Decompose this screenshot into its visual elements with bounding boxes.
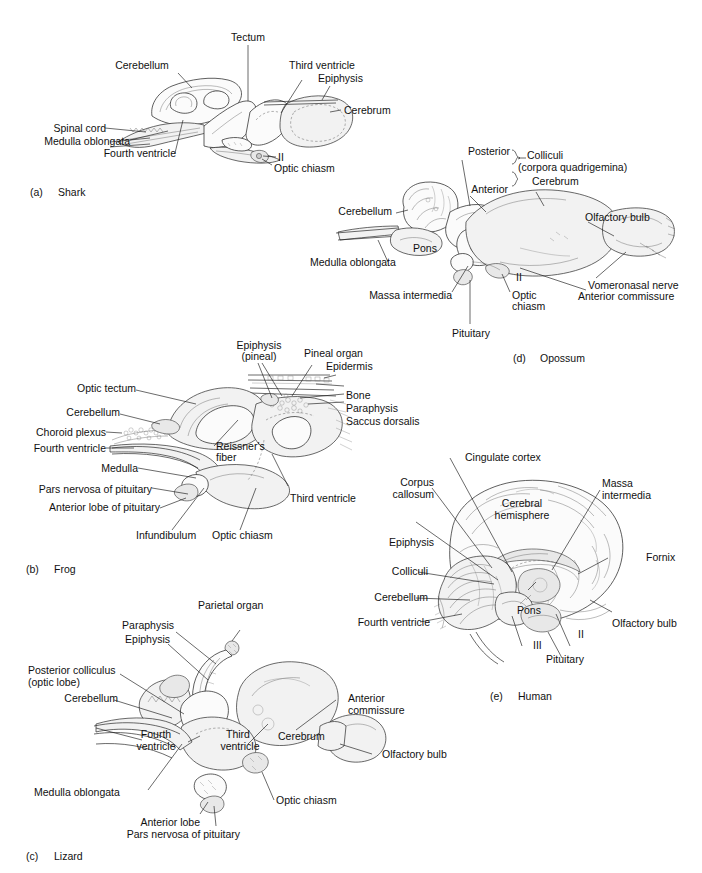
label-lizard-pars-nervosa: Pars nervosa of pituitary — [40, 829, 240, 841]
label-opossum-optic-nerve-ii: II — [516, 272, 522, 284]
label-human-pons: Pons — [517, 605, 541, 617]
label-opossum-cerebrum: Cerebrum — [532, 176, 579, 188]
panel-marker-b: (b) — [26, 563, 39, 575]
label-frog-optic-tectum: Optic tectum — [60, 383, 136, 395]
label-opossum-pituitary: Pituitary — [452, 328, 490, 340]
label-opossum-posterior: Posterior — [420, 146, 510, 158]
label-lizard-anterior-lobe: Anterior lobe — [60, 817, 200, 829]
label-opossum-cerebellum: Cerebellum — [328, 206, 392, 218]
label-opossum-optic-chiasm-l2: chiasm — [512, 301, 545, 313]
label-frog-saccus-dorsalis: Saccus dorsalis — [346, 416, 420, 428]
label-lizard-epiphysis: Epiphysis — [90, 634, 170, 646]
label-human-cerebellum: Cerebellum — [360, 592, 428, 604]
label-lizard-anterior-commissure-l1: Anterior — [348, 693, 385, 705]
label-opossum-pons: Pons — [413, 243, 437, 255]
label-human-colliculi: Colliculi — [370, 566, 428, 578]
label-human-nerve-ii: II — [578, 629, 584, 641]
panel-name-frog: Frog — [54, 563, 76, 575]
label-opossum-colliculi: Colliculi — [527, 150, 563, 162]
label-human-fourth-ventricle: Fourth ventricle — [340, 617, 430, 629]
label-human-fornix: Fornix — [646, 552, 675, 564]
label-human-corpus-l1: Corpus — [380, 477, 434, 489]
label-shark-optic-chiasm: Optic chiasm — [274, 163, 335, 175]
panel-name-lizard: Lizard — [54, 850, 83, 862]
label-shark-tectum: Tectum — [218, 32, 278, 44]
label-lizard-medulla-oblongata: Medulla oblongata — [34, 787, 120, 799]
label-frog-cerebellum: Cerebellum — [50, 407, 120, 419]
label-frog-pineal-organ: Pineal organ — [304, 348, 363, 360]
label-opossum-olfactory-bulb: Olfactory bulb — [585, 212, 650, 224]
label-shark-medulla-oblongata: Medulla oblongata — [20, 136, 130, 148]
label-lizard-cerebellum: Cerebellum — [44, 693, 118, 705]
panel-name-human: Human — [518, 690, 552, 702]
label-human-cerebral-l1: Cerebral — [486, 498, 558, 510]
label-frog-paraphysis: Paraphysis — [346, 403, 398, 415]
label-shark-spinal-cord: Spinal cord — [30, 123, 106, 135]
label-frog-medulla: Medulla — [80, 463, 138, 475]
label-frog-infundibulum: Infundibulum — [136, 530, 196, 542]
label-opossum-massa-intermedia: Massa intermedia — [356, 290, 452, 302]
label-opossum-medulla-oblongata: Medulla oblongata — [310, 257, 390, 269]
human-brain-drawing — [416, 458, 623, 664]
label-frog-reissners-fiber-l2: fiber — [216, 452, 236, 464]
label-human-corpus-l2: callosum — [370, 489, 434, 501]
label-human-massa-l1: Massa — [602, 478, 633, 490]
label-lizard-fourth-ventricle-l2: ventricle — [124, 741, 188, 753]
label-human-cerebral-l2: hemisphere — [482, 510, 562, 522]
label-lizard-optic-chiasm: Optic chiasm — [276, 795, 337, 807]
label-frog-epiphysis-l2: (pineal) — [222, 351, 296, 363]
label-lizard-anterior-commissure-l2: commissure — [348, 705, 405, 717]
label-lizard-posterior-colliculus-l2: (optic lobe) — [28, 677, 80, 689]
label-human-epiphysis: Epiphysis — [370, 537, 434, 549]
panel-marker-a: (a) — [30, 186, 43, 198]
label-shark-fourth-ventricle: Fourth ventricle — [30, 148, 176, 160]
label-lizard-cerebrum: Cerebrum — [278, 731, 325, 743]
label-lizard-parietal-organ: Parietal organ — [198, 600, 263, 612]
label-shark-cerebellum: Cerebellum — [106, 60, 178, 72]
label-lizard-posterior-colliculus-l1: Posterior colliculus — [28, 665, 116, 677]
label-opossum-anterior: Anterior — [420, 184, 508, 196]
label-lizard-third-ventricle-l2: ventricle — [210, 741, 270, 753]
label-shark-third-ventricle: Third ventricle — [289, 60, 355, 72]
label-frog-bone: Bone — [346, 390, 371, 402]
panel-marker-c: (c) — [26, 850, 38, 862]
label-lizard-olfactory-bulb: Olfactory bulb — [382, 749, 447, 761]
label-shark-cerebrum: Cerebrum — [344, 105, 391, 117]
panel-name-shark: Shark — [58, 186, 85, 198]
label-human-cingulate-cortex: Cingulate cortex — [465, 452, 541, 464]
label-lizard-fourth-ventricle-l1: Fourth — [128, 729, 184, 741]
label-shark-epiphysis: Epiphysis — [318, 73, 363, 85]
label-lizard-third-ventricle-l1: Third — [214, 729, 262, 741]
panel-name-opossum: Opossum — [540, 352, 585, 364]
label-human-olfactory-bulb: Olfactory bulb — [612, 618, 677, 630]
label-opossum-corpora-quadrigemina: (corpora quadrigemina) — [518, 162, 627, 174]
label-frog-anterior-lobe: Anterior lobe of pituitary — [10, 502, 160, 514]
label-frog-fourth-ventricle: Fourth ventricle — [8, 443, 106, 455]
label-frog-choroid-plexus: Choroid plexus — [8, 427, 106, 439]
label-opossum-anterior-commissure: Anterior commissure — [578, 291, 674, 303]
label-lizard-paraphysis: Paraphysis — [90, 620, 174, 632]
label-frog-pars-nervosa: Pars nervosa of pituitary — [4, 484, 152, 496]
panel-marker-e: (e) — [490, 690, 503, 702]
label-frog-optic-chiasm: Optic chiasm — [212, 530, 273, 542]
label-human-massa-l2: intermedia — [602, 490, 651, 502]
label-human-pituitary: Pituitary — [546, 654, 584, 666]
panel-marker-d: (d) — [513, 352, 526, 364]
comparative-brain-anatomy-figure: Tectum Cerebellum Third ventricle Epiphy… — [0, 0, 702, 873]
label-human-nerve-iii: III — [533, 640, 542, 652]
label-frog-third-ventricle: Third ventricle — [290, 493, 356, 505]
label-frog-epidermis: Epidermis — [326, 361, 373, 373]
